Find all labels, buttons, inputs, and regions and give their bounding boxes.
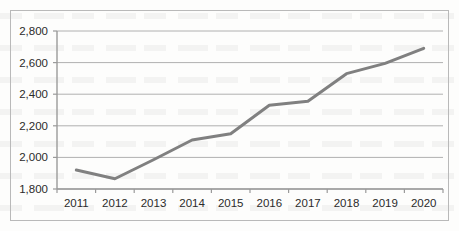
x-tick-label-2019: 2019 <box>372 197 398 209</box>
y-axis-tick-labels: 1,8002,0002,2002,4002,6002,800 <box>19 25 48 195</box>
y-tick-label-2800: 2,800 <box>19 25 48 37</box>
x-tick-label-2020: 2020 <box>411 197 437 209</box>
x-tick-label-2018: 2018 <box>334 197 360 209</box>
y-tick-label-2000: 2,000 <box>19 151 48 163</box>
y-tick-label-2200: 2,200 <box>19 120 48 132</box>
y-tick-label-1800: 1,800 <box>19 183 48 195</box>
x-tick-label-2014: 2014 <box>179 197 205 209</box>
gridlines-group <box>57 31 443 189</box>
x-tick-label-2013: 2013 <box>141 197 167 209</box>
x-tick-label-2015: 2015 <box>218 197 244 209</box>
line-chart: 1,8002,0002,2002,4002,6002,800 201120122… <box>0 0 459 231</box>
y-tick-label-2600: 2,600 <box>19 57 48 69</box>
x-axis-tick-labels: 2011201220132014201520162017201820192020 <box>64 197 437 209</box>
y-tick-label-2400: 2,400 <box>19 88 48 100</box>
data-series-line <box>76 48 423 178</box>
x-tick-label-2016: 2016 <box>257 197 283 209</box>
x-tick-label-2017: 2017 <box>295 197 321 209</box>
x-tick-label-2012: 2012 <box>102 197 128 209</box>
series-line-0 <box>76 48 423 178</box>
x-tick-label-2011: 2011 <box>64 197 89 209</box>
